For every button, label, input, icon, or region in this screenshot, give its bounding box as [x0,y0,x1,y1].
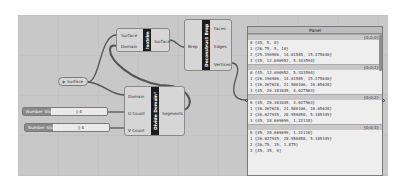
number-slider-v[interactable]: Number Slider ◊ 4 [24,123,110,132]
isotrim-input-domain[interactable]: Domain [121,44,137,49]
deconstruct-brep-node[interactable]: Brep Deconstruct Brep Faces Edges Vertic… [184,19,232,71]
divide-domain-input-ucount[interactable]: U Count [128,111,145,116]
panel-row: 3 {45, 35, 0} [248,148,382,154]
slider-value[interactable]: ◊ 4 [51,109,107,114]
isotrim-title: Isotrim [143,29,151,51]
isotrim-output-surface[interactable]: Surface [154,39,170,44]
surface-param[interactable]: ◈ Surface [58,77,88,86]
isotrim-node[interactable]: Surface Domain Isotrim Surface [116,28,170,52]
surface-param-label: Surface [67,79,83,84]
surface-param-icon: ◈ [62,79,65,84]
deconstruct-brep-output-edges[interactable]: Edges [214,44,227,49]
number-slider-u[interactable]: Number Slider ◊ 4 [22,107,108,116]
slider-label: Number Slider [25,124,53,131]
deconstruct-brep-output-faces[interactable]: Faces [214,26,226,31]
divide-domain-output-segments[interactable]: Segments [162,111,183,116]
panel-title: Panel [248,27,382,34]
deconstruct-brep-title: Deconstruct Brep [202,20,210,70]
panel-scrollbar[interactable] [379,35,382,71]
slider-value[interactable]: ◊ 4 [53,125,109,130]
divide-domain-input-domain[interactable]: Domain [128,94,144,99]
isotrim-input-surface[interactable]: Surface [121,33,137,38]
deconstruct-brep-input-brep[interactable]: Brep [188,44,198,49]
divide-domain2-node[interactable]: Domain U Count V Count Divide Domain² Se… [124,86,185,136]
divide-domain-title: Divide Domain² [151,87,159,135]
divide-domain-input-vcount[interactable]: V Count [128,128,145,133]
panel-output-grip[interactable] [382,99,385,102]
panel-input-grip[interactable] [245,99,248,102]
panel[interactable]: Panel {0;0;0} 0 {45, 5, 0} 1 {26.75, 5, … [247,26,383,176]
slider-label: Number Slider [23,108,51,115]
deconstruct-brep-output-vertices[interactable]: Vertices [214,62,231,67]
